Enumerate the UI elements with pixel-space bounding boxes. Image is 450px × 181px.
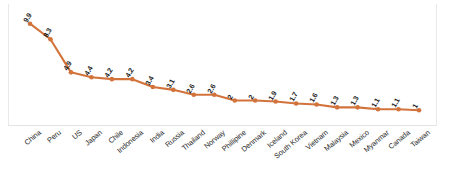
plot-area: 9.98.34.94.44.24.23.43.12.62.6221.91.71.… — [8, 4, 437, 126]
category-axis: ChinaPeruUSJapanChileIndonesiaIndiaRussi… — [8, 128, 437, 181]
category-label: Peru — [46, 128, 63, 145]
line-chart: 9.98.34.94.44.24.23.43.12.62.6221.91.71.… — [0, 0, 450, 181]
category-label: Canada — [386, 128, 411, 151]
category-label: Taiwan — [409, 128, 432, 149]
category-label: US — [70, 128, 84, 141]
category-label: China — [23, 128, 43, 147]
category-label: Japan — [83, 128, 104, 148]
